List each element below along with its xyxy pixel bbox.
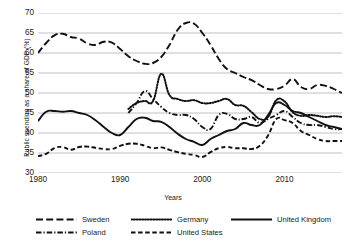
y-tick-label-50: 50 [6, 89, 34, 97]
legend-item-poland[interactable]: Poland [36, 227, 106, 238]
legend-item-poland-label: Poland [82, 227, 106, 238]
series-line-united-kingdom [38, 102, 342, 145]
legend-item-united-kingdom[interactable]: United Kingdom [231, 214, 331, 225]
legend-item-united-kingdom-swatch [231, 214, 272, 225]
plot-area [38, 13, 342, 173]
series-line-poland [128, 91, 342, 130]
x-tick-label-2000: 2000 [193, 176, 211, 184]
chart-container: Public spending as a share of GDP (%) 70… [0, 0, 346, 246]
legend-item-germany-label: Germany [177, 214, 208, 225]
x-axis-title: Years [0, 194, 346, 201]
y-tick-label-60: 60 [6, 49, 34, 57]
y-axis-tick-labels: 706560555045403530 [0, 0, 34, 200]
legend-item-united-states-swatch [131, 227, 172, 238]
legend-item-united-kingdom-label: United Kingdom [277, 214, 331, 225]
legend-item-sweden[interactable]: Sweden [36, 214, 109, 225]
legend-item-united-states-label: United States [177, 227, 223, 238]
series-line-united-states [38, 118, 342, 158]
legend-item-germany[interactable]: Germany [131, 214, 208, 225]
legend-item-germany-swatch [131, 214, 172, 225]
legend-item-united-states[interactable]: United States [131, 227, 223, 238]
x-tick-label-2010: 2010 [275, 176, 293, 184]
y-tick-label-45: 45 [6, 109, 34, 117]
legend-item-sweden-label: Sweden [82, 214, 109, 225]
x-tick-label-1980: 1980 [29, 176, 47, 184]
legend-item-sweden-swatch [36, 214, 77, 225]
y-tick-label-35: 35 [6, 149, 34, 157]
y-tick-label-55: 55 [6, 69, 34, 77]
chart-svg [38, 13, 342, 173]
legend-item-poland-swatch [36, 227, 77, 238]
x-axis-tick-labels: 1980199020002010 [0, 176, 346, 190]
y-tick-label-70: 70 [6, 9, 34, 17]
y-tick-label-40: 40 [6, 129, 34, 137]
y-tick-label-65: 65 [6, 29, 34, 37]
chart-legend: SwedenPolandGermanyUnited StatesUnited K… [0, 212, 346, 242]
x-tick-label-1990: 1990 [111, 176, 129, 184]
